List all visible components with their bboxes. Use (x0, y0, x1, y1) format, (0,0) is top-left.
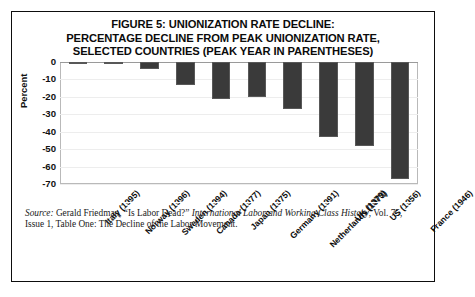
figure-title-line-2: PERCENTAGE DECLINE FROM PEAK UNIONIZATIO… (12, 32, 434, 46)
figure-frame: FIGURE 5: UNIONIZATION RATE DECLINE: PER… (11, 11, 435, 282)
gridline (60, 149, 418, 150)
bar (355, 62, 374, 146)
source-author: Gerald Friedman, “Is Labor Dead?” (54, 208, 192, 218)
source-journal: International Labor and Working Class Hi… (192, 208, 369, 218)
source-note: Source: Gerald Friedman, “Is Labor Dead?… (25, 208, 421, 231)
figure-title: FIGURE 5: UNIONIZATION RATE DECLINE: PER… (12, 18, 434, 59)
source-divider (12, 202, 434, 203)
y-tick-label: -40 (16, 127, 56, 137)
y-tick-label: -70 (16, 179, 56, 189)
bar (176, 62, 195, 85)
bar (104, 62, 123, 64)
y-tick-label: -30 (16, 109, 56, 119)
bar (283, 62, 302, 109)
y-tick-label: -20 (16, 92, 56, 102)
bar (69, 62, 88, 64)
bar-chart: Percent 0-10-20-30-40-50-60-70 Italy (19… (60, 62, 418, 184)
source-label: Source: (25, 208, 54, 218)
bar (248, 62, 267, 97)
x-tick-label: France (1946) (428, 188, 474, 234)
bar (391, 62, 410, 179)
y-tick-label: -10 (16, 74, 56, 84)
gridline (60, 184, 418, 185)
bar (140, 62, 159, 69)
y-tick-label: -50 (16, 144, 56, 154)
gridline (60, 167, 418, 168)
bar (212, 62, 231, 99)
figure-title-line-3: SELECTED COUNTRIES (PEAK YEAR IN PARENTH… (12, 45, 434, 59)
bar (319, 62, 338, 137)
y-tick-label: 0 (16, 57, 56, 67)
figure-title-line-1: FIGURE 5: UNIONIZATION RATE DECLINE: (12, 18, 434, 32)
y-tick-label: -60 (16, 162, 56, 172)
